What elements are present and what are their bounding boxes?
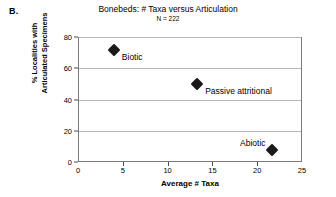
- x-axis-label: Average # Taxa: [78, 179, 302, 188]
- x-tick-mark-20: [257, 162, 258, 166]
- y-axis-label: % Localities with Articulated Specimens: [30, 0, 50, 112]
- plot-area: [78, 37, 302, 162]
- x-tick-mark-10: [168, 162, 169, 166]
- figure: B. Bonebeds: # Taxa versus Articulation …: [0, 0, 336, 197]
- y-tick-mark-0: [74, 162, 78, 163]
- y-tick-mark-60: [74, 68, 78, 69]
- y-axis-label-line1: % Localities with: [30, 23, 39, 83]
- gridline-y-20: [79, 131, 301, 132]
- data-point-label-passive-attritional: Passive attritional: [205, 86, 272, 96]
- gridline-y-60: [79, 68, 301, 69]
- data-point-label-biotic: Biotic: [122, 52, 143, 62]
- x-tick-label-15: 15: [200, 166, 224, 175]
- y-tick-mark-20: [74, 130, 78, 131]
- x-tick-mark-15: [212, 162, 213, 166]
- x-tick-label-20: 20: [245, 166, 269, 175]
- y-tick-mark-80: [74, 37, 78, 38]
- x-tick-label-5: 5: [111, 166, 135, 175]
- x-tick-label-25: 25: [290, 166, 314, 175]
- y-tick-mark-40: [74, 99, 78, 100]
- x-tick-label-0: 0: [66, 166, 90, 175]
- data-point-label-abiotic: Abiotic: [240, 138, 266, 148]
- y-tick-label-60: 60: [50, 64, 72, 73]
- y-tick-label-40: 40: [50, 95, 72, 104]
- y-tick-label-20: 20: [50, 126, 72, 135]
- x-tick-mark-5: [123, 162, 124, 166]
- x-tick-label-10: 10: [156, 166, 180, 175]
- y-axis-label-line2: Articulated Specimens: [40, 13, 49, 94]
- y-tick-label-80: 80: [50, 33, 72, 42]
- chart-title: Bonebeds: # Taxa versus Articulation: [0, 4, 336, 14]
- chart-subtitle: N = 222: [0, 15, 336, 22]
- gridline-y-40: [79, 100, 301, 101]
- gridline-y-80: [79, 37, 301, 38]
